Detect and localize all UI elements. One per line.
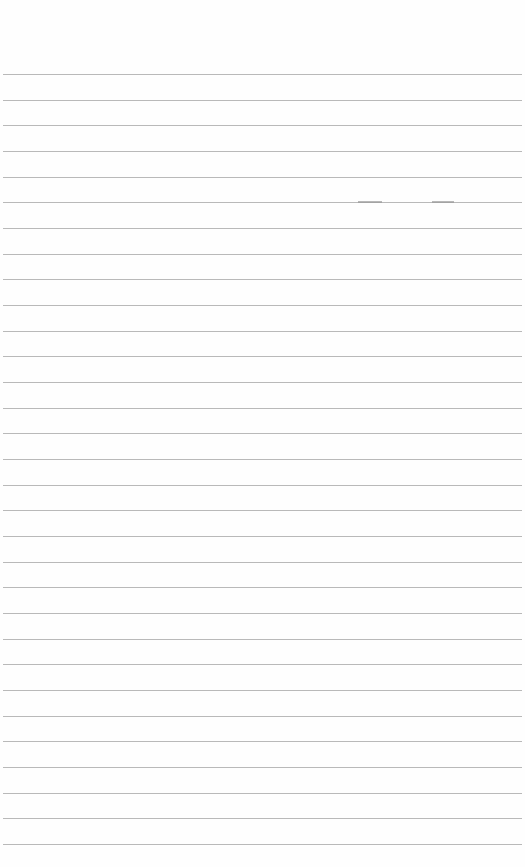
ruled-line [3, 716, 522, 717]
ruled-line [3, 408, 522, 409]
ruled-line [3, 536, 522, 537]
ruled-line [3, 125, 522, 126]
ruled-line [3, 613, 522, 614]
ruled-line [3, 485, 522, 486]
ruled-line [3, 433, 522, 434]
ruled-paper-page [0, 0, 525, 867]
ruled-line [3, 767, 522, 768]
ruled-line [3, 510, 522, 511]
line-smudge [432, 201, 454, 203]
ruled-line [3, 254, 522, 255]
ruled-line [3, 690, 522, 691]
ruled-line [3, 844, 522, 845]
ruled-line [3, 818, 522, 819]
ruled-line [3, 741, 522, 742]
ruled-line [3, 331, 522, 332]
ruled-line [3, 664, 522, 665]
ruled-line [3, 562, 522, 563]
ruled-line [3, 382, 522, 383]
ruled-line [3, 74, 522, 75]
ruled-line [3, 177, 522, 178]
ruled-line [3, 793, 522, 794]
ruled-line [3, 639, 522, 640]
ruled-line [3, 459, 522, 460]
ruled-line [3, 100, 522, 101]
ruled-line [3, 587, 522, 588]
ruled-line [3, 279, 522, 280]
line-smudge [358, 201, 382, 203]
ruled-line [3, 305, 522, 306]
ruled-line [3, 228, 522, 229]
ruled-line [3, 151, 522, 152]
ruled-line [3, 356, 522, 357]
